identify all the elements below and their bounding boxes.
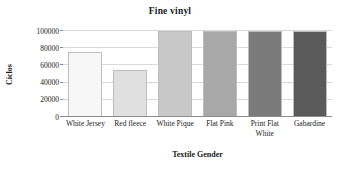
- chart-title: Fine vinyl: [0, 6, 340, 16]
- y-tick-label: 100000: [13, 28, 59, 36]
- bar-slot: [153, 31, 198, 117]
- bar-slot: [198, 31, 243, 117]
- bar[interactable]: [113, 70, 147, 117]
- bar[interactable]: [293, 31, 327, 117]
- x-axis-tick-labels: White JerseyRed fleeceWhite PiqueFlat Pi…: [63, 119, 332, 149]
- y-tick-label: 40000: [13, 79, 59, 87]
- bar[interactable]: [203, 31, 237, 117]
- y-tick-label: 80000: [13, 45, 59, 53]
- y-tick-label: 0: [13, 114, 59, 122]
- bar-series: [63, 31, 332, 117]
- bar-slot: [287, 31, 332, 117]
- x-tick-label: Red fleece: [108, 119, 153, 129]
- x-tick-label: White Pique: [153, 119, 198, 129]
- bar-slot: [108, 31, 153, 117]
- x-tick-label: White Jersey: [63, 119, 108, 129]
- x-axis-title: Textile Gender: [63, 150, 332, 159]
- bar-slot: [63, 31, 108, 117]
- x-tick-label: Gabardine: [287, 119, 332, 129]
- bar-chart: Fine vinyl Ciclos 0200004000060000800001…: [0, 0, 340, 171]
- plot-area: [63, 31, 332, 117]
- x-tick-label: Print Flat White: [242, 119, 287, 138]
- y-tick-label: 20000: [13, 96, 59, 104]
- bar[interactable]: [248, 31, 282, 117]
- bar[interactable]: [158, 31, 192, 117]
- x-axis-line: [63, 116, 332, 117]
- y-axis-tick-labels: 020000400006000080000100000: [13, 31, 59, 117]
- bar[interactable]: [68, 52, 102, 117]
- bar-slot: [242, 31, 287, 117]
- y-tick-label: 60000: [13, 62, 59, 70]
- x-tick-label: Flat Pink: [198, 119, 243, 129]
